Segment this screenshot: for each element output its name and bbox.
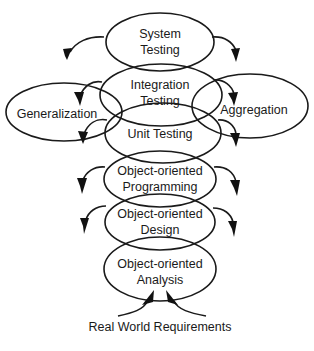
oo-design-ellipse (105, 194, 215, 250)
curved-arrow-icon (214, 167, 240, 196)
generalization-label: Generalization (17, 107, 98, 121)
curved-arrow-icon (74, 82, 102, 106)
oo-programming-label-2: Programming (122, 180, 197, 194)
diagram-canvas: System Testing Integration Testing Unit … (0, 0, 314, 351)
system-testing-label-1: System (139, 27, 181, 41)
oo-design-label-2: Design (141, 223, 180, 237)
oo-programming-ellipse (104, 151, 216, 207)
aggregation-label: Aggregation (220, 103, 287, 117)
oo-design-label-1: Object-oriented (117, 207, 203, 221)
curved-arrow-icon (80, 206, 106, 234)
oo-analysis-label-2: Analysis (137, 273, 184, 287)
real-world-requirements-label: Real World Requirements (89, 320, 232, 334)
oo-analysis-label-1: Object-oriented (117, 257, 203, 271)
system-testing-label-2: Testing (140, 43, 180, 57)
integration-testing-label-1: Integration (130, 78, 189, 92)
curved-arrow-icon (212, 37, 240, 62)
curved-arrow-icon (166, 290, 206, 316)
curved-arrow-icon (213, 208, 237, 237)
curved-arrow-icon (77, 167, 105, 194)
integration-testing-label-2: Testing (140, 94, 180, 108)
oo-programming-label-1: Object-oriented (117, 164, 203, 178)
curved-arrow-icon (63, 37, 104, 60)
unit-testing-label: Unit Testing (127, 127, 192, 141)
system-testing-ellipse (106, 13, 214, 71)
curved-arrow-icon (78, 120, 107, 144)
